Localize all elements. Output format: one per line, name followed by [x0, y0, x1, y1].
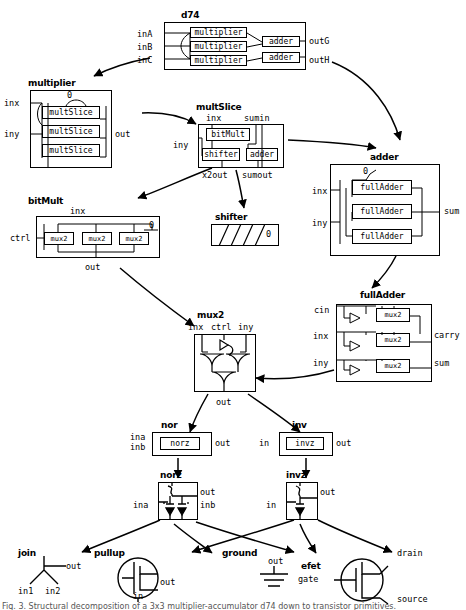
module-title-fulladder: fullAdder: [360, 290, 405, 300]
port-mux2-iny: iny: [238, 322, 253, 332]
module-title-d74: d74: [181, 10, 199, 20]
bitmult-internal-wires: [36, 216, 160, 258]
port-fulladder-cin: cin: [314, 305, 329, 315]
port-adder-iny: iny: [312, 218, 327, 228]
module-title-mux2: mux2: [197, 310, 224, 320]
module-title-invz: invz: [286, 470, 306, 480]
port-adder-sum: sum: [444, 206, 459, 216]
port-multslice-inx: inx: [206, 113, 221, 123]
port-d74-inA: inA: [137, 29, 152, 39]
join-symbol: [18, 556, 78, 588]
port-multiplier-out: out: [115, 129, 130, 139]
port-mux2-ctrl: ctrl: [211, 322, 231, 332]
efet-symbol: [330, 554, 396, 606]
port-nor-out: out: [215, 438, 230, 448]
module-title-nor: nor: [161, 420, 177, 430]
norz-transistor-schematic: [158, 482, 198, 520]
module-title-inv: inv: [292, 420, 307, 430]
shifter-internal-wires: [211, 224, 279, 246]
child-inv-invz[interactable]: invz: [286, 437, 324, 450]
module-title-efet: efet: [301, 561, 321, 571]
port-nor-inb: inb: [130, 442, 145, 452]
mux2-internal-gates: [194, 334, 256, 392]
port-fulladder-inx: inx: [313, 331, 328, 341]
port-efet-drain: drain: [397, 548, 423, 558]
port-d74-outH: outH: [309, 55, 329, 65]
module-title-ground: ground: [222, 548, 257, 558]
port-invz-in: in: [266, 500, 276, 510]
port-multiplier-inx: inx: [4, 98, 19, 108]
port-norz-out: out: [200, 487, 215, 497]
port-adder-inx: inx: [312, 186, 327, 196]
port-invz-out: out: [320, 487, 335, 497]
module-title-norz: norz: [160, 470, 181, 480]
port-ground-out: out: [268, 556, 283, 566]
figure-canvas: d74 inA inB inC outG outH multiplier mul…: [0, 0, 466, 610]
port-inv-in: in: [259, 438, 269, 448]
port-bitmult-ctrl: ctrl: [10, 233, 30, 243]
port-fulladder-carry: carry: [434, 330, 460, 340]
multiplier-internal-wires: [30, 90, 112, 168]
module-title-bitmult: bitMult: [28, 196, 63, 206]
pullup-symbol: [114, 556, 164, 604]
port-multslice-sumin: sumin: [244, 113, 270, 123]
port-multiplier-iny: iny: [4, 129, 19, 139]
d74-internal-wires: [164, 22, 306, 70]
port-norz-ina: ina: [133, 500, 148, 510]
module-title-shifter: shifter: [215, 212, 247, 222]
multslice-internal-wires: [198, 124, 284, 168]
module-title-multslice: multSlice: [196, 102, 241, 112]
port-efet-gate: gate: [298, 574, 318, 584]
module-title-adder: adder: [370, 152, 399, 162]
port-bitmult-inx: inx: [70, 206, 85, 216]
port-bitmult-out: out: [85, 262, 100, 272]
port-multslice-sumout: sumout: [242, 170, 273, 180]
ground-symbol: [256, 566, 294, 594]
port-nor-ina: ina: [130, 432, 145, 442]
invz-transistor-schematic: [286, 482, 318, 520]
child-nor-norz[interactable]: norz: [160, 437, 200, 450]
adder-internal-wires: [330, 164, 440, 256]
port-fulladder-sum: sum: [434, 358, 449, 368]
port-multslice-x2out: x2out: [202, 170, 228, 180]
port-mux2-out: out: [216, 397, 231, 407]
port-mux2-inx: inx: [188, 322, 203, 332]
port-multslice-iny: iny: [173, 140, 188, 150]
module-title-multiplier: multiplier: [28, 78, 75, 88]
port-fulladder-iny: iny: [313, 358, 328, 368]
figure-caption: Fig. 3. Structural decomposition of a 3x…: [2, 602, 462, 610]
port-inv-out: out: [336, 438, 351, 448]
port-d74-outG: outG: [309, 36, 329, 46]
port-norz-inb: inb: [200, 500, 215, 510]
port-d74-inC: inC: [137, 55, 152, 65]
port-d74-inB: inB: [137, 42, 152, 52]
fulladder-internal-wires: [336, 304, 432, 382]
